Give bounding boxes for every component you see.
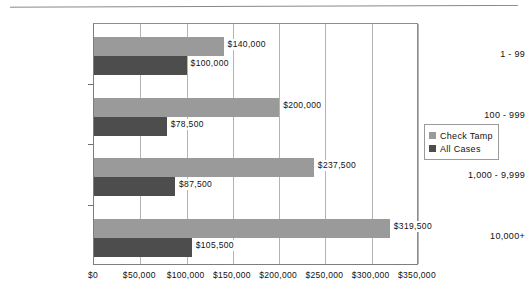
- chart-legend: Check Tamp All Cases: [424, 124, 499, 160]
- bar-data-label: $105,500: [193, 240, 236, 251]
- bar-data-label: $200,000: [280, 100, 323, 111]
- value-axis-tick-label: $100,000: [167, 270, 205, 280]
- bar[interactable]: [94, 37, 224, 56]
- legend-item-check-tamp[interactable]: Check Tamp: [429, 129, 493, 142]
- bar[interactable]: [94, 158, 314, 177]
- bar[interactable]: [94, 177, 175, 196]
- value-axis-tick-label: $200,000: [259, 270, 297, 280]
- bar-data-label: $78,500: [168, 119, 206, 130]
- bar-data-label: $319,500: [391, 221, 434, 232]
- bar[interactable]: [94, 98, 279, 117]
- bar-data-label: $140,000: [225, 39, 268, 50]
- category-tick: [88, 144, 93, 145]
- category-label: 100 - 999: [439, 110, 525, 120]
- bar-group: [94, 98, 418, 136]
- legend-item-label: Check Tamp: [440, 131, 493, 141]
- bar[interactable]: [94, 56, 187, 75]
- bar[interactable]: [94, 238, 192, 257]
- legend-item-all-cases[interactable]: All Cases: [429, 142, 493, 155]
- bar-data-label: $237,500: [315, 160, 358, 171]
- value-axis-tick-label: $0: [88, 270, 98, 280]
- dark-gray-swatch-icon: [429, 145, 436, 152]
- bar-data-label: $100,000: [188, 58, 231, 69]
- category-tick: [88, 205, 93, 206]
- bar-group: [94, 158, 418, 196]
- value-axis-tick-label: $250,000: [305, 270, 343, 280]
- value-axis-tick-label: $300,000: [352, 270, 390, 280]
- category-label: 10,000+: [439, 231, 525, 241]
- category-label: 1 - 99: [439, 49, 525, 59]
- bar-data-label: $87,500: [176, 179, 214, 190]
- light-gray-swatch-icon: [429, 132, 436, 139]
- bar[interactable]: [94, 219, 390, 238]
- category-tick: [88, 84, 93, 85]
- value-axis-tick-label: $350,000: [398, 270, 436, 280]
- category-label: 1,000 - 9,999: [439, 170, 525, 180]
- plot-area: [93, 23, 418, 265]
- bar-group: [94, 219, 418, 257]
- bar[interactable]: [94, 117, 167, 136]
- value-axis-tick-label: $50,000: [123, 270, 156, 280]
- horizontal-bar-chart: 1 - 99100 - 9991,000 - 9,99910,000+ $0$5…: [0, 0, 525, 300]
- value-axis-tick-label: $150,000: [213, 270, 251, 280]
- legend-item-label: All Cases: [440, 144, 481, 154]
